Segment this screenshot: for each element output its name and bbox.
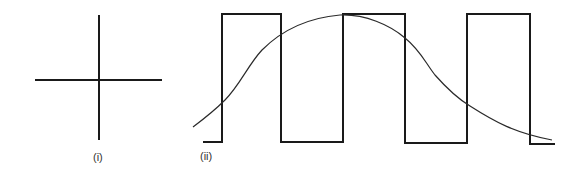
panel-ii-label: (ii)	[200, 150, 212, 162]
panel-i-label: (i)	[93, 151, 103, 163]
panel-i-cross	[35, 15, 162, 140]
panel-ii-waveform	[193, 14, 555, 144]
smooth-curve	[193, 15, 552, 140]
diagram-canvas	[0, 0, 583, 175]
